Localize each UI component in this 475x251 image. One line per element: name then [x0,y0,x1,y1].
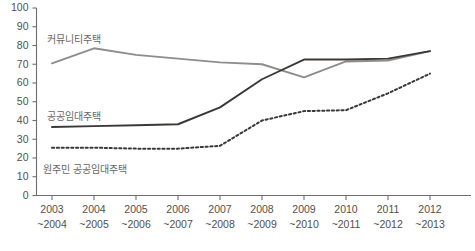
y-tick-label: 60 [17,76,29,88]
x-tick-label-start-year: 2003 [40,203,64,215]
x-tick-label-start-year: 2006 [166,203,190,215]
chart-container: 0102030405060708090100 2003~20042004~200… [0,0,475,251]
series-line-0 [52,48,430,77]
y-tick-label: 50 [17,95,29,107]
y-tick-label: 30 [17,133,29,145]
x-tick-label-end-year: ~2005 [79,218,109,230]
x-tick-label-start-year: 2010 [334,203,358,215]
x-tick-label-start-year: 2004 [82,203,106,215]
series-label-1: 공공임대주택 [47,110,101,122]
x-tick-label-end-year: ~2013 [415,218,445,230]
x-tick-label-end-year: ~2006 [121,218,151,230]
y-tick-label: 90 [17,20,29,32]
series-line-2 [52,74,430,149]
x-tick-label-end-year: ~2007 [163,218,193,230]
x-tick-label-end-year: ~2010 [289,218,319,230]
line-chart-plot: 0102030405060708090100 2003~20042004~200… [0,0,475,251]
y-tick-label: 80 [17,39,29,51]
y-tick-label: 100 [11,1,29,13]
x-tick-label-start-year: 2009 [292,203,316,215]
x-tick-label-end-year: ~2008 [205,218,235,230]
x-axis-ticks: 2003~20042004~20052005~20062006~20072007… [37,196,445,230]
series-inline-labels: 커뮤니티주택공공임대주택원주민 공공임대주택 [43,34,127,175]
x-tick-label-start-year: 2008 [250,203,274,215]
y-axis-ticks: 0102030405060708090100 [11,1,37,201]
data-series-group [52,48,430,148]
x-tick-label-start-year: 2012 [418,203,442,215]
x-tick-label-end-year: ~2004 [37,218,67,230]
x-tick-label-end-year: ~2012 [373,218,403,230]
y-tick-label: 20 [17,151,29,163]
x-tick-label-start-year: 2007 [208,203,232,215]
series-label-2: 원주민 공공임대주택 [43,163,127,175]
y-tick-label: 70 [17,58,29,70]
series-label-0: 커뮤니티주택 [47,34,101,45]
x-tick-label-end-year: ~2009 [247,218,277,230]
y-tick-label: 40 [17,114,29,126]
x-tick-label-start-year: 2011 [377,203,400,215]
x-tick-label-end-year: ~2011 [332,218,361,230]
y-tick-label: 10 [17,170,29,182]
x-tick-label-start-year: 2005 [124,203,148,215]
y-tick-label: 0 [23,189,29,201]
